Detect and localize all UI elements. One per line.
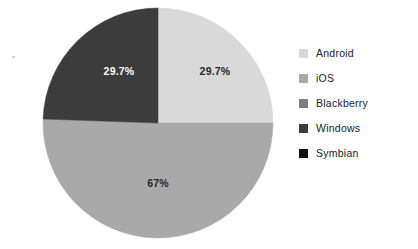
legend-swatch-icon [299, 99, 308, 108]
legend-item-ios[interactable]: iOS [299, 66, 411, 91]
legend-swatch-icon [299, 124, 308, 133]
pie-slice-android[interactable] [158, 8, 273, 123]
legend-swatch-icon [299, 49, 308, 58]
legend-item-label: iOS [316, 73, 334, 84]
pie-slice-group [43, 8, 273, 238]
legend-item-symbian[interactable]: Symbian [299, 141, 411, 166]
legend-item-label: Symbian [316, 148, 359, 159]
legend-swatch-icon [299, 149, 308, 158]
legend-item-windows[interactable]: Windows [299, 116, 411, 141]
legend-item-label: Android [316, 48, 354, 59]
pie-chart-figure: 29.7%67%29.7% AndroidiOSBlackberryWindow… [0, 0, 418, 249]
legend-swatch-icon [299, 74, 308, 83]
legend-item-label: Windows [316, 123, 360, 134]
legend-item-label: Blackberry [316, 98, 368, 109]
pie-slice-windows[interactable] [43, 8, 158, 123]
legend-item-android[interactable]: Android [299, 41, 411, 66]
legend-item-blackberry[interactable]: Blackberry [299, 91, 411, 116]
pie-slice-ios[interactable] [43, 119, 273, 238]
chart-legend: AndroidiOSBlackberryWindowsSymbian [299, 41, 411, 166]
